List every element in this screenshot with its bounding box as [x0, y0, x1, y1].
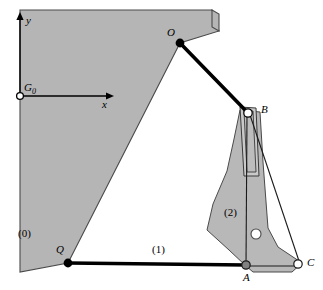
- joint-label-a: A: [243, 272, 250, 283]
- axis-label-y: y: [26, 15, 31, 26]
- ground-body-shape: [20, 10, 219, 272]
- mechanism-figure: y x G0 (0) (1) (2) O B Q A C: [0, 0, 323, 290]
- axis-label-x: x: [102, 99, 107, 110]
- crank-bar-o-b: [180, 43, 248, 113]
- origin-label: G0: [24, 82, 36, 96]
- body-label-link-one: (1): [152, 244, 165, 255]
- joint-q-marker: [64, 259, 73, 268]
- joint-a-marker: [242, 261, 250, 269]
- joint-label-c: C: [307, 257, 314, 268]
- origin-label-letter: G: [24, 81, 32, 93]
- origin-marker-icon: [17, 93, 24, 100]
- joint-label-b: B: [261, 104, 268, 115]
- joint-label-o: O: [167, 27, 175, 38]
- origin-label-subscript: 0: [32, 87, 36, 96]
- joint-o-marker: [176, 39, 185, 48]
- joint-label-q: Q: [56, 244, 64, 255]
- link-two-hole-icon: [251, 229, 261, 239]
- joint-c-marker: [294, 260, 302, 268]
- body-label-link-two: (2): [224, 207, 237, 218]
- body-label-ground: (0): [18, 228, 31, 239]
- ground-body-notch: [212, 10, 219, 31]
- ground-body-group: [20, 10, 219, 272]
- joint-b-marker: [244, 109, 252, 117]
- link-one-bar: [68, 263, 246, 265]
